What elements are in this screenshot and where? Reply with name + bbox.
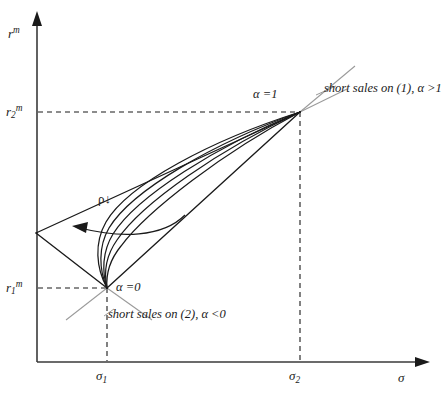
x-axis-label: σ	[398, 371, 404, 384]
x-tick-sigma1-subscript: 1	[102, 375, 107, 385]
guide-lines-group	[38, 112, 300, 361]
y-axis-label: rm	[8, 26, 20, 40]
x-axis-arrowhead	[415, 357, 430, 367]
axes-group	[32, 11, 430, 367]
frontier-curves-group	[98, 112, 300, 288]
x-tick-sigma2-subscript: 2	[295, 375, 300, 385]
alpha-one-label-value: 1	[271, 87, 277, 101]
portfolio-frontier-figure: rm σ r2m r1m σ1 σ2 α =1 α =0 short sales…	[0, 0, 443, 394]
y-tick-label-r1m: r1m	[6, 280, 22, 297]
y-tick-label-r2m: r2m	[6, 104, 22, 121]
y-tick-r1m-superscript: m	[16, 279, 23, 289]
figure-canvas	[0, 0, 443, 394]
x-axis-label-base: σ	[398, 370, 404, 385]
frontier-line-rho-plus-one	[107, 112, 300, 288]
y-axis-arrowhead	[32, 11, 42, 26]
alpha-one-label-text: α =	[253, 87, 271, 101]
frontier-curve-1	[98, 112, 300, 288]
short-sales-annotation-1: short sales on (1), α >1	[324, 82, 442, 95]
x-tick-label-sigma1: σ1	[96, 369, 107, 385]
alpha-zero-label: α =0	[116, 281, 140, 294]
short-sales-line-2a	[66, 288, 107, 320]
alpha-one-label: α =1	[253, 88, 277, 101]
rho-direction-arrowhead	[72, 222, 88, 233]
short-sales-annotation-2: short sales on (2), α <0	[108, 308, 226, 321]
y-axis-label-superscript: m	[13, 25, 20, 35]
frontier-line-rho-minus-one-lower	[36, 233, 107, 288]
alpha-zero-label-text: α =	[116, 280, 134, 294]
y-tick-r2m-superscript: m	[16, 103, 23, 113]
alpha-zero-label-value: 0	[134, 280, 140, 294]
rho-decreasing-label: ρ↓	[98, 192, 111, 205]
x-tick-label-sigma2: σ2	[289, 369, 300, 385]
